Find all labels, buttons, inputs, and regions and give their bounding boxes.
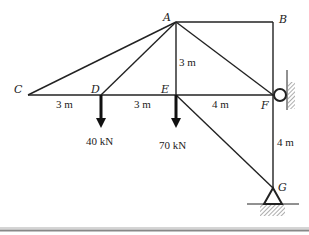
dimension-DE: 3 m [134,98,151,110]
node-label-C: C [14,83,23,96]
node-label-E: E [160,83,169,96]
dimension-CD: 3 m [56,98,73,110]
arrow-down-icon [171,118,181,128]
load-E [171,95,181,128]
node-label-D: D [90,83,100,96]
node-label-F: F [260,99,269,112]
pin-support-G [247,188,299,216]
node-label-G: G [278,181,287,194]
truss-diagram: A B C D E F G 3 m 3 m 3 m 4 m 4 m 40 kN … [0,0,309,235]
load-D [96,95,106,128]
dimension-EF: 4 m [212,98,229,110]
member-CA [28,22,176,95]
arrow-down-icon [96,118,106,128]
dimension-AE: 3 m [179,56,196,68]
load-label-D: 40 kN [86,135,113,147]
roller-support-F [274,70,295,110]
node-label-A: A [162,11,171,24]
bottom-divider [0,228,309,231]
dimension-FG: 4 m [277,136,294,148]
load-label-E: 70 kN [159,139,186,151]
node-label-B: B [278,13,287,26]
